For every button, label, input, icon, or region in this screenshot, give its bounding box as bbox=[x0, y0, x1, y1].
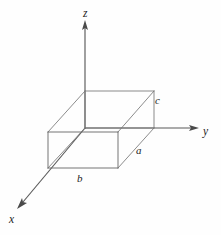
dimension-label-c: c bbox=[155, 95, 160, 106]
x-axis-label: x bbox=[9, 214, 14, 226]
z-axis-label: z bbox=[83, 8, 87, 20]
figure-canvas: z y x a b c bbox=[0, 0, 221, 235]
edge-depth-bottom-left bbox=[48, 128, 85, 168]
box-back-edges bbox=[48, 91, 154, 168]
x-axis-line bbox=[23, 128, 85, 202]
y-axis-label: y bbox=[203, 126, 208, 138]
axes-group bbox=[17, 20, 199, 209]
box-front-face bbox=[48, 132, 118, 168]
dimension-label-a: a bbox=[136, 145, 142, 156]
dimension-label-b: b bbox=[77, 173, 83, 184]
edge-depth-top-left bbox=[48, 91, 85, 132]
coordinate-box-diagram bbox=[0, 0, 221, 235]
edge-depth-top-right bbox=[118, 91, 154, 132]
